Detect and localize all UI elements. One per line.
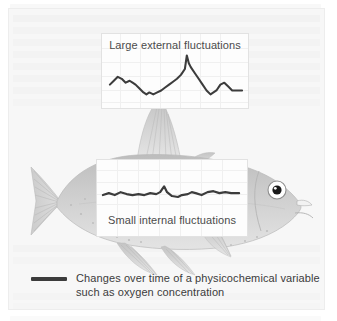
legend: Changes over time of a physicochemical v… — [31, 271, 321, 299]
fish-mouth — [295, 200, 313, 218]
legend-text-line1: Changes over time of a physicochemical v… — [76, 272, 320, 284]
chart-small-internal-fluctuations: Small internal fluctuations — [96, 159, 248, 237]
legend-line-swatch — [31, 277, 67, 281]
chart-large-external-fluctuations: Large external fluctuations — [101, 33, 249, 109]
figure-panel: Large external fluctuations Small intern… — [8, 8, 325, 310]
fish-gill-cover — [255, 171, 261, 231]
figure-root: Large external fluctuations Small intern… — [0, 0, 337, 321]
legend-text: Changes over time of a physicochemical v… — [76, 271, 320, 299]
fish-tail-fin — [31, 167, 59, 235]
fish-eye — [268, 181, 286, 199]
chart-caption-external: Large external fluctuations — [102, 39, 248, 51]
chart-caption-internal: Small internal fluctuations — [97, 214, 247, 226]
legend-text-line2: such as oxygen concentration — [76, 285, 320, 299]
